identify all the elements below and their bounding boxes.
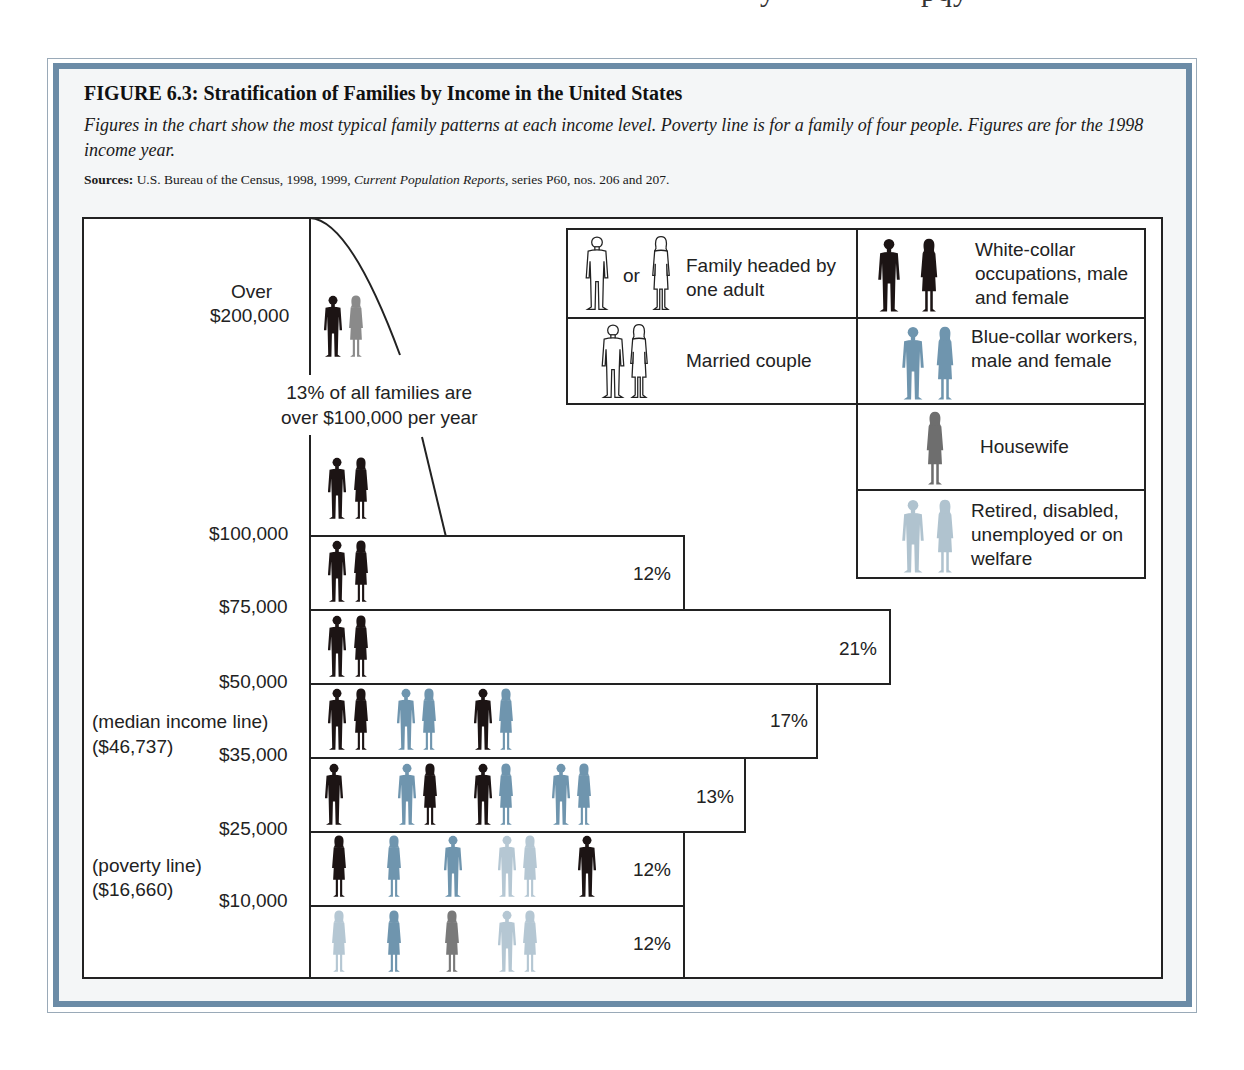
white-collar-man-icon xyxy=(576,835,598,899)
white-collar-man-icon xyxy=(323,763,345,827)
legend-married-couple-label: Married couple xyxy=(686,349,812,373)
blue-collar-woman-icon xyxy=(495,688,517,752)
label-median-value: ($46,737) xyxy=(92,735,173,759)
label-25k: $25,000 xyxy=(219,817,288,841)
label-50k: $50,000 xyxy=(219,670,288,694)
label-200k: $200,000 xyxy=(210,304,289,328)
band-25k-35k: 13% xyxy=(309,757,746,833)
band-percent: 12% xyxy=(633,859,671,881)
white-collar-man-icon xyxy=(326,457,348,521)
source-publication: Current Population Reports, xyxy=(354,172,508,187)
top-income-curve xyxy=(300,215,460,540)
band-35k-50k: 17% xyxy=(309,683,818,759)
white-collar-woman-icon xyxy=(350,615,372,679)
legend-or: or xyxy=(623,264,640,288)
retired-woman-icon xyxy=(519,910,541,974)
band-percent: 13% xyxy=(696,786,734,808)
legend-retired: Retired, disabled, unemployed or on welf… xyxy=(856,489,1146,579)
legend-blue-collar: Blue-collar workers, male and female xyxy=(856,317,1146,405)
legend-housewife-label: Housewife xyxy=(980,435,1069,459)
retired-woman-icon xyxy=(519,835,541,899)
outline-woman-icon xyxy=(648,236,674,312)
white-collar-woman-icon xyxy=(916,238,942,314)
legend-single-adult-label: Family headed by one adult xyxy=(686,254,846,302)
legend-white-collar: White-collar occupations, male and femal… xyxy=(856,228,1146,319)
page-header-fragment: y · · · · · · · pqy xyxy=(760,0,969,8)
white-collar-man-icon xyxy=(472,688,494,752)
callout-line-1: 13% of all families are xyxy=(281,380,477,405)
white-collar-woman-icon xyxy=(350,688,372,752)
band-percent: 21% xyxy=(839,638,877,660)
top-income-callout: 13% of all families are over $100,000 pe… xyxy=(278,380,480,430)
housewife-icon xyxy=(922,411,948,487)
outline-woman-icon xyxy=(626,324,652,400)
legend-blue-collar-label: Blue-collar workers, male and female xyxy=(971,325,1146,373)
white-collar-man-icon xyxy=(326,615,348,679)
band-50k-75k: 21% xyxy=(309,609,891,685)
figure-caption: Figures in the chart show the most typic… xyxy=(84,113,1154,163)
label-100k: $100,000 xyxy=(209,522,288,546)
label-median-line: (median income line) xyxy=(92,710,268,734)
legend-single-adult: or Family headed by one adult xyxy=(566,228,858,319)
blue-collar-woman-icon xyxy=(573,763,595,827)
label-poverty-line: (poverty line) xyxy=(92,854,202,878)
white-collar-woman-icon xyxy=(350,540,372,604)
source-text: U.S. Bureau of the Census, 1998, 1999, xyxy=(133,172,354,187)
blue-collar-man-icon xyxy=(550,763,572,827)
label-75k: $75,000 xyxy=(219,595,288,619)
label-35k: $35,000 xyxy=(219,743,288,767)
band-percent: 17% xyxy=(770,710,808,732)
band-percent: 12% xyxy=(633,563,671,585)
retired-man-icon xyxy=(496,835,518,899)
blue-collar-man-icon xyxy=(396,763,418,827)
legend-retired-label: Retired, disabled, unemployed or on welf… xyxy=(971,499,1146,571)
label-over: Over xyxy=(231,280,272,304)
blue-collar-woman-icon xyxy=(418,688,440,752)
housewife-icon xyxy=(345,295,367,359)
source-series: series P60, nos. 206 and 207. xyxy=(508,172,669,187)
figure-source: Sources: U.S. Bureau of the Census, 1998… xyxy=(84,172,669,188)
retired-woman-icon xyxy=(932,499,958,575)
blue-collar-woman-icon xyxy=(495,763,517,827)
blue-collar-woman-icon xyxy=(383,910,405,974)
blue-collar-man-icon xyxy=(442,835,464,899)
retired-man-icon xyxy=(900,499,926,575)
outline-man-icon xyxy=(584,236,610,312)
white-collar-woman-icon xyxy=(419,763,441,827)
label-10k: $10,000 xyxy=(219,889,288,913)
legend-white-collar-label: White-collar occupations, male and femal… xyxy=(975,238,1145,310)
white-collar-man-icon xyxy=(876,238,902,314)
white-collar-man-icon xyxy=(322,295,344,359)
retired-man-icon xyxy=(496,910,518,974)
label-poverty-value: ($16,660) xyxy=(92,878,173,902)
blue-collar-man-icon xyxy=(900,326,926,402)
callout-line-2: over $100,000 per year xyxy=(281,405,477,430)
outline-man-icon xyxy=(600,324,626,400)
source-label: Sources: xyxy=(84,172,133,187)
blue-collar-woman-icon xyxy=(932,326,958,402)
white-collar-man-icon xyxy=(326,540,348,604)
housewife-icon xyxy=(441,910,463,974)
white-collar-woman-icon xyxy=(328,835,350,899)
retired-woman-icon xyxy=(328,910,350,974)
blue-collar-woman-icon xyxy=(383,835,405,899)
white-collar-man-icon xyxy=(472,763,494,827)
white-collar-man-icon xyxy=(326,688,348,752)
legend-housewife: Housewife xyxy=(856,403,1146,491)
blue-collar-man-icon xyxy=(395,688,417,752)
white-collar-woman-icon xyxy=(350,457,372,521)
band-percent: 12% xyxy=(633,933,671,955)
legend-married-couple: Married couple xyxy=(566,317,858,405)
figure-title: FIGURE 6.3: Stratification of Families b… xyxy=(84,82,682,105)
